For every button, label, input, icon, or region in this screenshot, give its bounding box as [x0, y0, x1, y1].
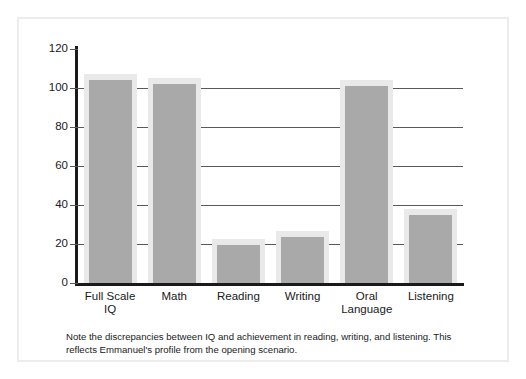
- bar-group: [89, 80, 132, 283]
- bar-group: [345, 86, 388, 283]
- y-tick-100: [70, 88, 78, 89]
- bar: [409, 215, 452, 283]
- x-axis-label: Listening: [399, 290, 463, 303]
- bar-group: [409, 215, 452, 283]
- bar: [153, 84, 196, 283]
- figure-container: 020406080100120 Full ScaleIQMathReadingW…: [0, 0, 526, 379]
- y-tick-label-120: 120: [38, 43, 68, 55]
- x-axis-label: Writing: [271, 290, 335, 303]
- x-axis-label-line: IQ: [78, 303, 142, 316]
- bar-group: [281, 237, 324, 283]
- y-tick-40: [70, 205, 78, 206]
- bar: [89, 80, 132, 283]
- bar-group: [217, 245, 260, 283]
- bar: [281, 237, 324, 283]
- y-tick-label-0: 0: [38, 277, 68, 289]
- x-axis-label-line: Reading: [206, 290, 270, 303]
- x-axis-label: Full ScaleIQ: [78, 290, 142, 316]
- y-tick-label-100: 100: [38, 82, 68, 94]
- bar: [345, 86, 388, 283]
- x-axis-label-line: Full Scale: [78, 290, 142, 303]
- y-tick-80: [70, 127, 78, 128]
- x-axis-label: OralLanguage: [335, 290, 399, 316]
- x-axis-line: [75, 283, 464, 286]
- x-axis-label-line: Oral: [335, 290, 399, 303]
- y-tick-0: [70, 283, 78, 284]
- plot-area: [78, 49, 463, 283]
- y-tick-20: [70, 244, 78, 245]
- x-axis-label: Math: [142, 290, 206, 303]
- x-axis-label-line: Language: [335, 303, 399, 316]
- figure-caption: Note the discrepancies between IQ and ac…: [66, 330, 466, 356]
- x-axis-label-line: Listening: [399, 290, 463, 303]
- y-tick-label-20: 20: [38, 238, 68, 250]
- bar-group: [153, 84, 196, 283]
- x-axis-label-line: Writing: [271, 290, 335, 303]
- y-tick-label-40: 40: [38, 199, 68, 211]
- y-tick-120: [70, 49, 78, 50]
- y-axis-labels: 020406080100120: [32, 0, 68, 379]
- y-tick-60: [70, 166, 78, 167]
- bar: [217, 245, 260, 283]
- x-axis-label: Reading: [206, 290, 270, 303]
- y-tick-label-80: 80: [38, 121, 68, 133]
- x-axis-label-line: Math: [142, 290, 206, 303]
- y-tick-label-60: 60: [38, 160, 68, 172]
